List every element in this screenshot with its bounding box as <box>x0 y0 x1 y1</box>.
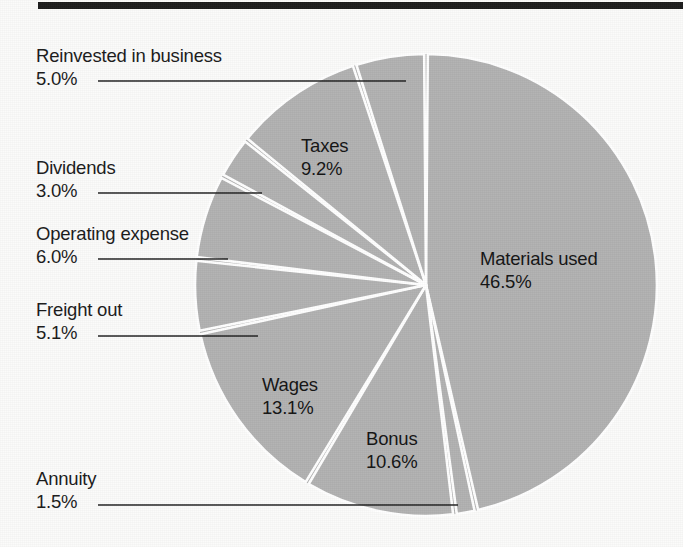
slice-label-bonus-name: Bonus <box>366 427 417 450</box>
slice-label-bonus: Bonus 10.6% <box>366 427 417 473</box>
callout-value-operating-expense: 6.0% <box>36 245 189 268</box>
slice-label-bonus-value: 10.6% <box>366 450 417 473</box>
callout-reinvested-in-business: Reinvested in business 5.0% <box>36 44 222 90</box>
pie-chart-figure: Reinvested in business 5.0% Dividends 3.… <box>0 0 683 547</box>
slice-label-materials-used-name: Materials used <box>480 247 598 270</box>
slice-label-materials-used: Materials used 46.5% <box>480 247 598 293</box>
callout-label-dividends: Dividends <box>36 156 115 179</box>
slice-label-wages-value: 13.1% <box>262 396 318 419</box>
callout-label-reinvested: Reinvested in business <box>36 44 222 67</box>
callout-freight-out: Freight out 5.1% <box>36 298 122 344</box>
callout-label-operating-expense: Operating expense <box>36 222 189 245</box>
slice-label-taxes: Taxes 9.2% <box>301 134 348 180</box>
callout-dividends: Dividends 3.0% <box>36 156 115 202</box>
slice-label-taxes-name: Taxes <box>301 134 348 157</box>
callout-value-dividends: 3.0% <box>36 179 115 202</box>
slice-label-taxes-value: 9.2% <box>301 157 348 180</box>
slice-label-materials-used-value: 46.5% <box>480 270 598 293</box>
callout-label-annuity: Annuity <box>36 467 96 490</box>
callout-value-reinvested: 5.0% <box>36 67 222 90</box>
callout-label-freight-out: Freight out <box>36 298 122 321</box>
callout-value-freight-out: 5.1% <box>36 321 122 344</box>
slice-label-wages-name: Wages <box>262 373 318 396</box>
callout-value-annuity: 1.5% <box>36 490 96 513</box>
callout-annuity: Annuity 1.5% <box>36 467 96 513</box>
slice-label-wages: Wages 13.1% <box>262 373 318 419</box>
callout-operating-expense: Operating expense 6.0% <box>36 222 189 268</box>
